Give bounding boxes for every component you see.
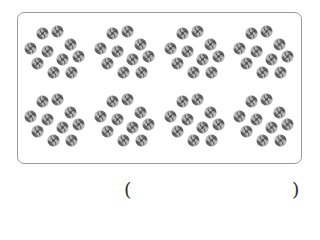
pinwheel-candy-icon — [245, 27, 258, 40]
answer-open-paren: ( — [124, 180, 131, 199]
pinwheel-candy-icon — [205, 66, 218, 79]
pinwheel-candy-icon — [191, 93, 204, 106]
pinwheel-candy-icon — [51, 93, 64, 106]
pinwheel-candy-icon — [94, 42, 107, 55]
pinwheel-candy-icon — [117, 134, 130, 147]
pinwheel-candy-icon — [101, 125, 114, 138]
pinwheel-candy-icon — [121, 25, 134, 38]
pinwheel-candy-icon — [171, 125, 184, 138]
pinwheel-candy-icon — [240, 125, 253, 138]
pinwheel-candy-icon — [187, 134, 200, 147]
pinwheel-candy-icon — [142, 118, 155, 131]
candy-group — [24, 92, 84, 144]
pinwheel-candy-icon — [135, 134, 148, 147]
pinwheel-candy-icon — [36, 27, 49, 40]
pinwheel-candy-icon — [126, 121, 139, 134]
pinwheel-candy-icon — [36, 95, 49, 108]
pinwheel-candy-icon — [65, 134, 78, 147]
pinwheel-candy-icon — [106, 95, 119, 108]
pinwheel-candy-icon — [256, 134, 269, 147]
pinwheel-candy-icon — [31, 57, 44, 70]
pinwheel-candy-icon — [256, 66, 269, 79]
pinwheel-candy-icon — [56, 121, 69, 134]
pinwheel-candy-icon — [164, 42, 177, 55]
pinwheel-candy-icon — [274, 66, 287, 79]
pinwheel-candy-icon — [164, 110, 177, 123]
candy-group — [164, 24, 224, 76]
pinwheel-candy-icon — [47, 134, 60, 147]
pinwheel-candy-icon — [135, 66, 148, 79]
pinwheel-candy-icon — [260, 25, 273, 38]
pinwheel-candy-icon — [260, 93, 273, 106]
pinwheel-candy-icon — [47, 66, 60, 79]
answer-blank[interactable] — [140, 180, 285, 200]
pinwheel-candy-icon — [233, 42, 246, 55]
candy-group — [164, 92, 224, 144]
pinwheel-candy-icon — [281, 50, 294, 63]
pinwheel-candy-icon — [117, 66, 130, 79]
pinwheel-candy-icon — [106, 27, 119, 40]
candy-group — [24, 24, 84, 76]
pinwheel-candy-icon — [121, 93, 134, 106]
candy-group — [233, 24, 293, 76]
pinwheel-candy-icon — [176, 95, 189, 108]
pinwheel-candy-icon — [245, 95, 258, 108]
pinwheel-candy-icon — [196, 53, 209, 66]
pinwheel-candy-icon — [94, 110, 107, 123]
pinwheel-candy-icon — [205, 134, 218, 147]
pinwheel-candy-icon — [265, 121, 278, 134]
pinwheel-candy-icon — [72, 118, 85, 131]
candy-group — [94, 24, 154, 76]
pinwheel-candy-icon — [51, 25, 64, 38]
pinwheel-candy-icon — [171, 57, 184, 70]
pinwheel-candy-icon — [233, 110, 246, 123]
pinwheel-candy-icon — [24, 110, 37, 123]
pinwheel-candy-icon — [212, 50, 225, 63]
pinwheel-candy-icon — [212, 118, 225, 131]
answer-close-paren: ) — [292, 180, 299, 199]
candy-group — [233, 92, 293, 144]
pinwheel-candy-icon — [281, 118, 294, 131]
pinwheel-candy-icon — [126, 53, 139, 66]
pinwheel-candy-icon — [142, 50, 155, 63]
pinwheel-candy-icon — [196, 121, 209, 134]
pinwheel-candy-icon — [187, 66, 200, 79]
pinwheel-candy-icon — [24, 42, 37, 55]
pinwheel-candy-icon — [65, 66, 78, 79]
candy-group — [94, 92, 154, 144]
pinwheel-candy-icon — [176, 27, 189, 40]
pinwheel-candy-icon — [72, 50, 85, 63]
pinwheel-candy-icon — [274, 134, 287, 147]
pinwheel-candy-icon — [265, 53, 278, 66]
pinwheel-candy-icon — [101, 57, 114, 70]
pinwheel-candy-icon — [56, 53, 69, 66]
pinwheel-candy-icon — [191, 25, 204, 38]
pinwheel-candy-icon — [240, 57, 253, 70]
pinwheel-candy-icon — [31, 125, 44, 138]
